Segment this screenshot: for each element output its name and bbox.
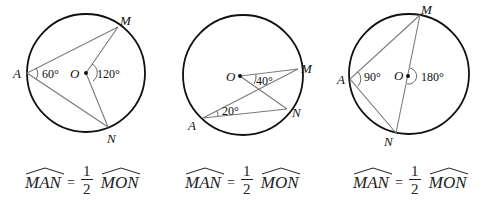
label-M-1: M [119,13,132,28]
fraction-half: 1 2 [241,163,253,198]
label-N-2: N [291,105,302,120]
inscribed-angle-MAN-3 [350,15,420,133]
inscribed-angle-value-2: 20° [222,104,239,118]
formula-2: MAN = 1 2 MON [185,160,299,200]
inscribed-angle-MAN-2 [203,69,298,118]
hat-icon [25,167,65,175]
hat-icon [261,167,301,175]
hat-icon [353,167,393,175]
central-angle-value-3: 180° [421,70,444,84]
label-A-1: A [12,66,21,81]
label-N-1: N [106,131,117,146]
arc-MON-3: MON [429,167,467,193]
arc-MAN-1: MAN [25,167,61,193]
center-point-1 [84,71,88,75]
hat-icon [185,167,225,175]
hat-icon [429,167,469,175]
angle-arc-A-2 [217,111,218,116]
fraction-half: 1 2 [81,163,93,198]
label-O-3: O [394,68,404,83]
inscribed-angle-value-1: 60° [42,67,59,81]
center-point-2 [238,74,242,78]
angle-arc-A-3 [358,72,361,86]
arc-MAN-2: MAN [185,167,221,193]
hat-icon [101,167,141,175]
formula-1: MAN = 1 2 MON [25,160,139,200]
angle-arc-A-1 [36,68,38,79]
label-O-2: O [226,69,236,84]
diagram-1: A M N O 60° 120° [12,13,145,146]
formula-3: MAN = 1 2 MON [353,160,467,200]
fraction-half: 1 2 [409,163,421,198]
equals-sign: = [67,169,75,191]
arc-MON-1: MON [101,167,139,193]
circle-2 [183,15,303,135]
inscribed-angle-value-3: 90° [364,70,381,84]
label-M-3: M [420,2,433,17]
center-point-3 [406,74,410,78]
label-A-2: A [187,118,196,133]
label-A-3: A [336,72,345,87]
label-O-1: O [70,66,80,81]
arc-MON-2: MON [261,167,299,193]
central-angle-value-2: 40° [256,74,273,88]
central-angle-value-1: 120° [97,67,120,81]
diagram-2: A M N O 40° 20° [183,15,313,135]
arc-MAN-3: MAN [353,167,389,193]
equals-sign: = [227,169,235,191]
label-N-3: N [383,134,394,149]
equals-sign: = [395,169,403,191]
diagram-3: A M N O 90° 180° [336,2,469,149]
label-M-2: M [300,61,313,76]
